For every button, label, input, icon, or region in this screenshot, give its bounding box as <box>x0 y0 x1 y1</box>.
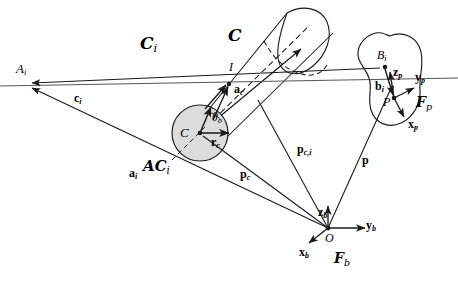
label-frame-Fp: Fp <box>416 95 432 111</box>
label-region-ACi: ACi <box>143 159 170 176</box>
kinematics-diagram: Ai Ci C ci ai I ac C θc rc ACi pc pc,i p… <box>0 0 458 286</box>
label-vector-pc: pc <box>240 168 250 182</box>
axis-yp-arrow <box>394 88 414 98</box>
cone-cap-group <box>264 8 329 75</box>
label-vector-ai: ai <box>129 167 137 181</box>
label-axis-xb: xb <box>299 246 309 260</box>
contact-point-I-dot <box>227 82 231 86</box>
label-axis-zb: zb <box>318 206 327 220</box>
line-ai-origin-to-Ai <box>32 88 328 228</box>
label-cone-Ci: Ci <box>140 35 157 55</box>
label-apex-Ai: Ai <box>16 62 26 77</box>
label-contact-I: I <box>229 61 233 73</box>
label-frame-Fb: Fb <box>334 251 350 267</box>
label-axis-xp: xp <box>408 118 418 132</box>
label-axis-yp: yp <box>415 71 425 85</box>
label-vector-rc: rc <box>211 136 220 150</box>
label-vector-p: p <box>362 154 369 166</box>
axis-xp-arrow <box>394 98 404 117</box>
label-center-C: C <box>180 126 189 139</box>
label-vector-ci: ci <box>74 92 82 106</box>
label-point-Bi: Bi <box>377 49 387 63</box>
label-vector-bi: bi <box>375 80 384 94</box>
label-vector-pci: pc,i <box>297 143 312 157</box>
label-point-P: P <box>383 96 390 108</box>
label-axis-yb: yb <box>366 219 376 233</box>
label-cone-C: C <box>228 27 242 44</box>
label-angle-theta-c: θc <box>212 111 222 125</box>
cone-cap-outline <box>278 8 330 74</box>
label-axis-zp: zp <box>393 66 402 80</box>
label-origin-O: O <box>325 232 334 244</box>
label-vector-ac: ac <box>234 83 244 97</box>
point-Bi-dot <box>383 65 388 70</box>
